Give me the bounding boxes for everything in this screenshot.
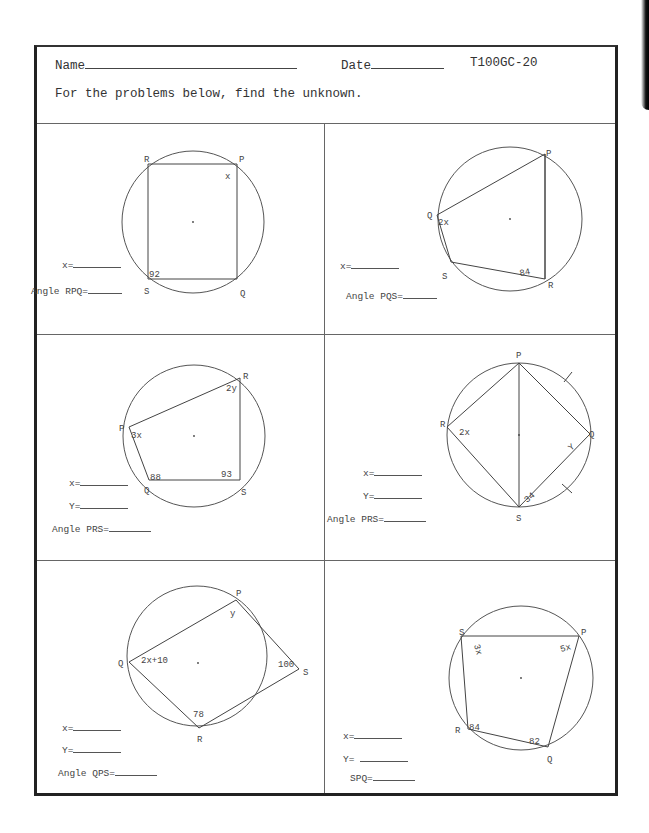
name-blank[interactable] <box>85 56 297 69</box>
answer-blank[interactable] <box>403 289 437 299</box>
svg-text:88: 88 <box>150 473 161 483</box>
svg-text:S: S <box>144 287 149 297</box>
worksheet: Name Date T100GC-20 For the problems bel… <box>34 45 618 796</box>
svg-text:34: 34 <box>523 491 538 506</box>
svg-text:S: S <box>241 488 246 498</box>
svg-text:3x: 3x <box>471 643 483 656</box>
svg-text:92: 92 <box>149 270 160 280</box>
svg-text:Q: Q <box>589 430 594 440</box>
answer-blank[interactable] <box>384 512 426 522</box>
answer-label: x= <box>69 478 80 489</box>
answer-y[interactable]: Y= <box>343 752 408 765</box>
worksheet-code: T100GC-20 <box>470 56 538 70</box>
problem-1-diagram: R P S Q x 92 <box>37 124 324 334</box>
answer-y[interactable]: Y= <box>363 489 422 502</box>
answer-label: x= <box>62 723 73 734</box>
answer-label: Angle PQS= <box>346 291 403 302</box>
svg-text:P: P <box>119 424 124 434</box>
svg-text:2x: 2x <box>438 218 449 228</box>
svg-text:2x: 2x <box>459 428 470 438</box>
answer-blank[interactable] <box>374 466 422 476</box>
answer-label: Y= <box>363 491 374 502</box>
answer-angle-prs[interactable]: Angle PRS= <box>327 512 426 525</box>
answer-blank[interactable] <box>354 729 402 739</box>
svg-text:2y: 2y <box>226 384 237 394</box>
scanner-shadow <box>641 0 649 110</box>
answer-label: Angle PRS= <box>327 514 384 525</box>
svg-text:S: S <box>442 272 447 282</box>
answer-x[interactable]: x= <box>62 258 121 271</box>
answer-angle-qps[interactable]: Angle QPS= <box>58 766 157 779</box>
answer-blank[interactable] <box>351 259 399 269</box>
svg-text:R: R <box>243 372 249 382</box>
answer-label: Y= <box>69 501 80 512</box>
problem-grid: R P S Q x 92 x= Angle RPQ= P Q <box>37 124 615 793</box>
answer-angle-pqs[interactable]: Angle PQS= <box>346 289 437 302</box>
svg-text:Q: Q <box>118 659 123 669</box>
date-field[interactable]: Date <box>341 56 444 73</box>
svg-text:S: S <box>459 628 464 638</box>
svg-text:x: x <box>225 172 230 182</box>
answer-x[interactable]: x= <box>62 721 121 734</box>
answer-blank[interactable] <box>115 766 157 776</box>
answer-label: x= <box>62 260 73 271</box>
svg-text:Q: Q <box>144 486 149 496</box>
answer-x[interactable]: x= <box>343 729 402 742</box>
svg-text:P: P <box>516 351 521 361</box>
answer-blank[interactable] <box>109 522 151 532</box>
svg-text:Q: Q <box>547 755 552 765</box>
date-label: Date <box>341 59 371 73</box>
answer-blank[interactable] <box>80 476 128 486</box>
answer-label: SPQ= <box>350 773 373 784</box>
svg-text:2x+10: 2x+10 <box>141 656 168 666</box>
svg-text:y: y <box>230 609 236 619</box>
answer-y[interactable]: Y= <box>62 743 121 756</box>
answer-blank[interactable] <box>88 284 122 294</box>
answer-angle-prs[interactable]: Angle PRS= <box>52 522 151 535</box>
problem-2: P Q S R 2x 84 x= Angle PQS= <box>325 124 618 334</box>
problem-1: R P S Q x 92 x= Angle RPQ= <box>37 124 324 334</box>
svg-text:78: 78 <box>193 710 204 720</box>
worksheet-header: Name Date T100GC-20 For the problems bel… <box>37 47 615 124</box>
svg-text:84: 84 <box>469 723 480 733</box>
answer-label: Angle PRS= <box>52 524 109 535</box>
svg-text:R: R <box>197 735 203 745</box>
answer-label: Y= <box>62 745 73 756</box>
svg-text:3x: 3x <box>131 431 142 441</box>
svg-text:S: S <box>303 668 308 678</box>
answer-x[interactable]: x= <box>69 476 128 489</box>
svg-text:82: 82 <box>529 737 540 747</box>
svg-text:P: P <box>236 589 241 599</box>
answer-label: Angle RPQ= <box>31 286 88 297</box>
problem-6: S P R Q 3x 5x 84 82 x= Y= SPQ= <box>325 561 618 795</box>
name-field[interactable]: Name <box>55 56 297 73</box>
answer-label: x= <box>363 468 374 479</box>
svg-text:93: 93 <box>221 470 232 480</box>
svg-text:84: 84 <box>519 267 531 279</box>
svg-text:100: 100 <box>278 660 294 670</box>
svg-text:R: R <box>455 726 461 736</box>
name-label: Name <box>55 59 85 73</box>
answer-blank[interactable] <box>360 752 408 762</box>
svg-text:Y: Y <box>567 442 578 454</box>
answer-blank[interactable] <box>73 743 121 753</box>
answer-x[interactable]: x= <box>363 466 422 479</box>
problem-4: P Q R S 2x Y 34 x= Y= Angle PRS= <box>325 335 618 560</box>
problem-2-diagram: P Q S R 2x 84 <box>325 124 618 334</box>
date-blank[interactable] <box>371 56 444 69</box>
answer-blank[interactable] <box>80 499 128 509</box>
svg-text:Q: Q <box>240 289 245 299</box>
answer-angle-spq[interactable]: SPQ= <box>350 771 415 784</box>
answer-blank[interactable] <box>374 489 422 499</box>
svg-text:P: P <box>581 628 586 638</box>
svg-text:P: P <box>546 149 551 159</box>
answer-blank[interactable] <box>373 771 415 781</box>
answer-angle-rpq[interactable]: Angle RPQ= <box>31 284 122 297</box>
answer-blank[interactable] <box>73 258 121 268</box>
svg-text:5x: 5x <box>559 642 572 654</box>
answer-label: x= <box>343 731 354 742</box>
svg-text:R: R <box>144 155 150 165</box>
answer-blank[interactable] <box>73 721 121 731</box>
answer-y[interactable]: Y= <box>69 499 128 512</box>
answer-x[interactable]: x= <box>340 259 399 272</box>
